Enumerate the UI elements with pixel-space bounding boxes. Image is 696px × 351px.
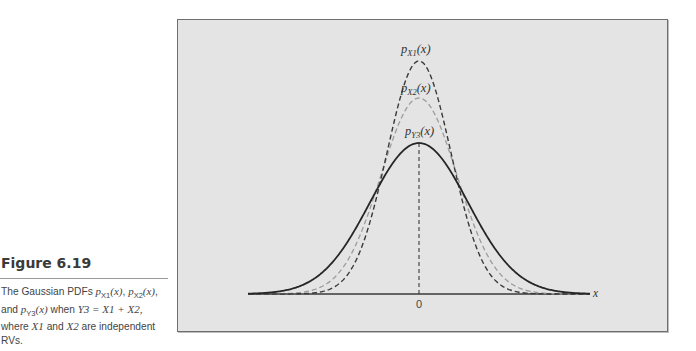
label-px2: pX2(x) xyxy=(400,81,431,97)
x-axis-label: x xyxy=(592,287,599,299)
curve-px1 xyxy=(248,61,590,294)
tick-zero: 0 xyxy=(416,298,422,310)
label-px1: pX1(x) xyxy=(400,42,431,58)
gaussian-chart: pX1(x) pX2(x) pY3(x) 0 x xyxy=(0,0,696,351)
label-py3: pY3(x) xyxy=(404,124,434,140)
